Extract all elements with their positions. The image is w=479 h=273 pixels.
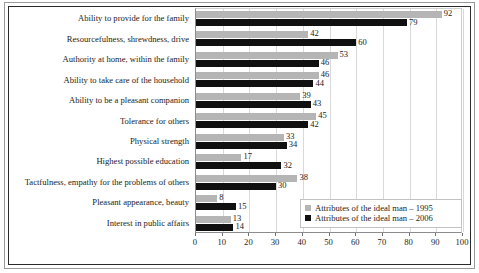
gridline-100 bbox=[463, 9, 464, 232]
bar-value-label: 92 bbox=[444, 9, 453, 18]
bar-row: 3830 bbox=[196, 173, 461, 193]
x-tick-label: 30 bbox=[271, 237, 280, 247]
category-label: Ability to provide for the family bbox=[78, 13, 189, 23]
category-label: Interest in public affairs bbox=[107, 218, 189, 228]
bar-value-label: 8 bbox=[219, 193, 223, 202]
bar-value-label: 39 bbox=[302, 91, 311, 100]
legend-label: Attributes of the ideal man – 2006 bbox=[315, 213, 433, 223]
bar-value-label: 32 bbox=[283, 161, 292, 170]
category-label: Pleasant appearance, beauty bbox=[92, 197, 189, 207]
bar-value-label: 42 bbox=[310, 29, 319, 38]
bar-2006 bbox=[196, 121, 308, 128]
x-tick-mark bbox=[435, 233, 436, 236]
bar-value-label: 60 bbox=[358, 38, 367, 47]
bar-value-label: 43 bbox=[313, 99, 322, 108]
x-tick-label: 50 bbox=[324, 237, 333, 247]
x-tick-label: 90 bbox=[431, 237, 440, 247]
bar-2006 bbox=[196, 80, 313, 87]
legend-entry[interactable]: Attributes of the ideal man – 2006 bbox=[305, 213, 457, 223]
bar-2006 bbox=[196, 203, 236, 210]
bar-2006 bbox=[196, 101, 311, 108]
bar-1995 bbox=[196, 154, 241, 161]
bar-1995 bbox=[196, 113, 316, 120]
legend: Attributes of the ideal man – 1995Attrib… bbox=[300, 199, 462, 228]
bar-row: 4260 bbox=[196, 29, 461, 49]
category-label: Authority at home, within the family bbox=[63, 54, 190, 64]
x-tick-label: 40 bbox=[298, 237, 307, 247]
bar-2006 bbox=[196, 60, 319, 67]
bar-1995 bbox=[196, 134, 284, 141]
bar-value-label: 53 bbox=[340, 50, 349, 59]
bar-row: 9279 bbox=[196, 9, 461, 29]
x-tick-mark bbox=[382, 233, 383, 236]
chart-figure: Ability to provide for the familyResourc… bbox=[0, 0, 479, 273]
x-tick-label: 100 bbox=[456, 237, 469, 247]
bar-1995 bbox=[196, 216, 231, 223]
x-tick-mark bbox=[302, 233, 303, 236]
category-label: Tolerance for others bbox=[120, 116, 189, 126]
bar-row: 3943 bbox=[196, 91, 461, 111]
bar-value-label: 46 bbox=[321, 58, 330, 67]
bar-2006 bbox=[196, 183, 276, 190]
bar-value-label: 17 bbox=[243, 152, 252, 161]
bar-2006 bbox=[196, 142, 287, 149]
bar-1995 bbox=[196, 11, 442, 18]
bar-row: 3334 bbox=[196, 132, 461, 152]
category-label: Ability to take care of the household bbox=[63, 75, 189, 85]
bar-1995 bbox=[196, 52, 338, 59]
legend-entry[interactable]: Attributes of the ideal man – 1995 bbox=[305, 203, 457, 213]
x-tick-mark bbox=[275, 233, 276, 236]
bar-row: 4542 bbox=[196, 111, 461, 131]
bar-value-label: 44 bbox=[315, 79, 324, 88]
x-tick-mark bbox=[462, 233, 463, 236]
category-label: Ability to be a pleasant companion bbox=[69, 95, 189, 105]
category-axis-labels: Ability to provide for the familyResourc… bbox=[10, 8, 192, 233]
bar-value-label: 38 bbox=[299, 173, 308, 182]
bar-row: 5346 bbox=[196, 50, 461, 70]
bar-value-label: 45 bbox=[318, 111, 327, 120]
x-tick-label: 70 bbox=[378, 237, 387, 247]
bar-row: 1732 bbox=[196, 152, 461, 172]
bar-value-label: 14 bbox=[235, 222, 244, 231]
legend-label: Attributes of the ideal man – 1995 bbox=[315, 203, 433, 213]
category-label: Tactfulness, empathy for the problems of… bbox=[25, 177, 189, 187]
x-tick-label: 10 bbox=[217, 237, 226, 247]
bar-value-label: 42 bbox=[310, 120, 319, 129]
bar-row: 4644 bbox=[196, 70, 461, 90]
x-tick-mark bbox=[355, 233, 356, 236]
bar-2006 bbox=[196, 19, 407, 26]
bar-2006 bbox=[196, 162, 281, 169]
bar-1995 bbox=[196, 72, 319, 79]
bar-value-label: 30 bbox=[278, 181, 287, 190]
legend-swatch-icon bbox=[305, 205, 311, 211]
legend-swatch-icon bbox=[305, 215, 311, 221]
category-label: Resourcefulness, shrewdness, drive bbox=[67, 34, 189, 44]
x-tick-mark bbox=[329, 233, 330, 236]
bar-2006 bbox=[196, 224, 233, 231]
x-tick-mark bbox=[222, 233, 223, 236]
x-tick-mark bbox=[195, 233, 196, 236]
x-axis: 0102030405060708090100 bbox=[195, 233, 462, 249]
bar-value-label: 34 bbox=[289, 140, 298, 149]
category-label: Physical strength bbox=[130, 136, 189, 146]
x-tick-mark bbox=[409, 233, 410, 236]
bar-2006 bbox=[196, 39, 356, 46]
bar-1995 bbox=[196, 93, 300, 100]
x-tick-mark bbox=[248, 233, 249, 236]
x-tick-label: 60 bbox=[351, 237, 360, 247]
bar-value-label: 15 bbox=[238, 202, 247, 211]
x-tick-label: 20 bbox=[244, 237, 253, 247]
x-tick-label: 80 bbox=[404, 237, 413, 247]
bar-1995 bbox=[196, 31, 308, 38]
x-tick-label: 0 bbox=[193, 237, 197, 247]
category-label: Highest possible education bbox=[96, 156, 189, 166]
bar-value-label: 79 bbox=[409, 18, 418, 27]
bar-1995 bbox=[196, 195, 217, 202]
